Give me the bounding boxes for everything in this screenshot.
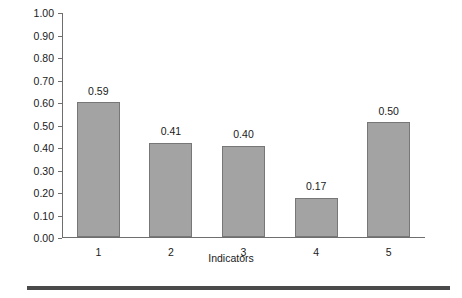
y-tick-mark <box>58 13 62 14</box>
bar-value-label: 0.50 <box>367 106 410 117</box>
y-tick-label: 0.00 <box>34 233 54 244</box>
y-tick-mark <box>58 193 62 194</box>
bar <box>295 198 338 237</box>
x-axis-title: Indicators <box>0 253 462 264</box>
y-axis-line <box>62 13 63 238</box>
y-tick-mark <box>58 238 62 239</box>
y-tick-mark <box>58 81 62 82</box>
bar-value-label: 0.17 <box>295 181 338 192</box>
y-tick-mark <box>58 171 62 172</box>
bar <box>149 143 192 238</box>
y-tick-mark <box>58 148 62 149</box>
bar-value-label: 0.40 <box>222 129 265 140</box>
bar <box>367 122 410 237</box>
bar-chart-figure: 1.000.900.800.700.600.500.400.300.200.10… <box>0 0 462 298</box>
plot-area: 1.000.900.800.700.600.500.400.300.200.10… <box>62 13 425 238</box>
y-tick-label: 0.40 <box>34 143 54 154</box>
y-tick-mark <box>58 36 62 37</box>
y-tick-label: 0.20 <box>34 188 54 199</box>
y-tick-mark <box>58 103 62 104</box>
bar <box>222 146 265 237</box>
y-tick-label: 0.80 <box>34 53 54 64</box>
y-tick-label: 0.70 <box>34 75 54 86</box>
bar <box>77 102 120 237</box>
bottom-rule <box>27 286 450 290</box>
x-axis-line <box>62 237 425 238</box>
y-tick-label: 0.30 <box>34 165 54 176</box>
y-tick-mark <box>58 58 62 59</box>
y-tick-label: 0.50 <box>34 120 54 131</box>
y-tick-label: 1.00 <box>34 8 54 19</box>
y-tick-label: 0.90 <box>34 30 54 41</box>
y-tick-mark <box>58 126 62 127</box>
y-tick-mark <box>58 216 62 217</box>
bar-value-label: 0.59 <box>77 86 120 97</box>
y-tick-label: 0.60 <box>34 98 54 109</box>
bar-value-label: 0.41 <box>149 126 192 137</box>
y-tick-label: 0.10 <box>34 210 54 221</box>
